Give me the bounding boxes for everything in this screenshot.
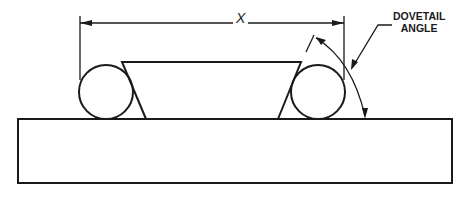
left-roll bbox=[79, 65, 133, 119]
arrowhead-right bbox=[332, 20, 344, 26]
dovetail-angle-label: DOVETAIL ANGLE bbox=[393, 10, 445, 34]
label-line-2: ANGLE bbox=[393, 22, 445, 34]
arrowhead-left bbox=[80, 20, 92, 26]
leader-line bbox=[352, 25, 392, 68]
dimension-label-x: X bbox=[233, 10, 248, 26]
dovetail-profile bbox=[122, 62, 301, 119]
base-block bbox=[18, 119, 452, 183]
arc-arrowhead-bottom bbox=[362, 108, 368, 119]
right-roll bbox=[291, 65, 345, 119]
label-line-1: DOVETAIL bbox=[393, 10, 445, 22]
angle-reference-line bbox=[306, 35, 314, 52]
